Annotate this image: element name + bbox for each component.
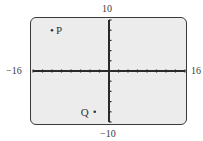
point-q-marker: [93, 111, 96, 114]
point-p-marker: [51, 29, 54, 32]
point-q-label: Q: [81, 106, 89, 118]
plot-area: PQ: [0, 0, 203, 141]
point-p-label: P: [56, 24, 62, 36]
